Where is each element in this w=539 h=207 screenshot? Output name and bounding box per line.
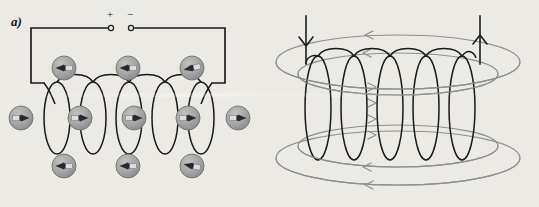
compass-needle	[122, 106, 146, 130]
compass-needle	[9, 106, 33, 130]
panel-a-drawing	[0, 0, 270, 207]
positive-terminal-label: +	[107, 8, 113, 20]
power-terminals	[108, 25, 133, 30]
compass-needle	[180, 154, 204, 178]
field-lines-front-overlap	[276, 62, 520, 185]
compass-needle	[52, 154, 76, 178]
compass-needle	[68, 106, 92, 130]
compass-row-top	[52, 56, 204, 80]
negative-terminal-label: −	[127, 8, 133, 20]
positive-terminal-icon	[108, 25, 113, 30]
compass-needle	[116, 154, 140, 178]
field-arrowheads-interior	[368, 83, 376, 139]
compass-needle	[116, 56, 140, 80]
negative-terminal-icon	[128, 25, 133, 30]
compass-needle	[176, 106, 200, 130]
compass-needle	[180, 56, 204, 80]
panel-b-drawing	[270, 0, 539, 207]
compass-needle	[226, 106, 250, 130]
physics-figure-solenoid: a)	[0, 0, 539, 207]
compass-needle	[52, 56, 76, 80]
compass-row-bottom	[52, 154, 204, 178]
magnetic-field-lines	[276, 35, 520, 185]
panel-a-solenoid-compasses: a)	[0, 0, 270, 207]
solenoid-coil	[305, 49, 476, 161]
panel-b-field-lines: b)	[270, 0, 539, 207]
